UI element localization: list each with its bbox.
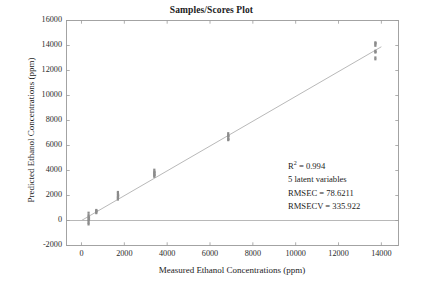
data-point-marker [117, 198, 119, 200]
data-point-marker [95, 212, 97, 214]
data-point-marker [374, 58, 376, 60]
data-point-marker [153, 171, 155, 173]
data-point-marker [88, 216, 90, 218]
data-point-marker [227, 138, 229, 140]
r-squared-text: R2 = 0.994 [288, 160, 360, 173]
y-axis-tick-label: -2000 [14, 240, 62, 249]
y-axis-tick-label: 2000 [14, 190, 62, 199]
y-axis-tick-label: 6000 [14, 140, 62, 149]
y-axis-tick-label: 4000 [14, 165, 62, 174]
data-point-marker [374, 42, 376, 44]
data-point-marker [227, 135, 229, 137]
data-point-marker [374, 45, 376, 47]
data-point-marker [87, 212, 89, 214]
data-point-marker [153, 174, 155, 176]
data-point-marker [87, 223, 89, 225]
x-axis-label: Measured Ethanol Concentrations (ppm) [66, 265, 398, 275]
y-axis-label: Predicted Ethanol Concentrations (ppm) [26, 15, 36, 245]
rmsec-text: RMSEC = 78.6211 [288, 187, 360, 200]
plot-canvas [0, 0, 423, 290]
x-axis-tick-label: 14000 [356, 249, 406, 258]
data-point-marker [117, 195, 119, 197]
y-axis-tick-label: 0 [14, 215, 62, 224]
data-point-marker [88, 218, 90, 220]
r-squared-value: = 0.994 [297, 161, 325, 171]
samples-scores-plot-figure: Samples/Scores Plot Measured Ethanol Con… [0, 0, 423, 290]
data-point-marker [95, 210, 97, 212]
latent-variables-text: 5 latent variables [288, 173, 360, 186]
y-axis-tick-label: 16000 [14, 15, 62, 24]
y-axis-tick-label: 12000 [14, 65, 62, 74]
y-axis-tick-label: 10000 [14, 90, 62, 99]
y-axis-tick-label: 8000 [14, 115, 62, 124]
y-axis-tick-label: 14000 [14, 40, 62, 49]
rmsecv-text: RMSECV = 335.922 [288, 200, 360, 213]
statistics-annotation: R2 = 0.994 5 latent variables RMSEC = 78… [288, 160, 360, 214]
data-point-marker [374, 51, 376, 53]
